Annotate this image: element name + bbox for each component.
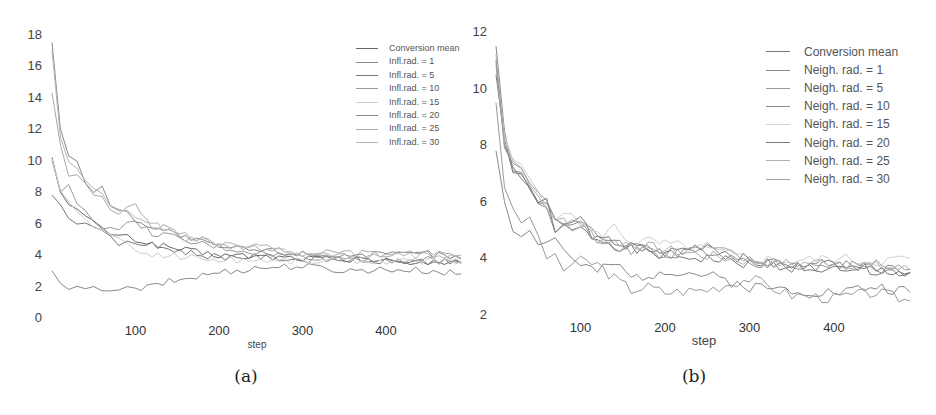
legend-item: Infl.rad. = 25	[356, 122, 460, 135]
legend-label: Conversion mean	[804, 43, 898, 61]
y-tick-label: 0	[12, 310, 42, 325]
x-tick-label: 300	[283, 323, 323, 338]
legend-line-swatch-icon	[766, 106, 790, 107]
legend-label: Infl.rad. = 5	[389, 69, 434, 82]
legend-label: Infl.rad. = 15	[389, 96, 439, 109]
legend-line-swatch-icon	[356, 102, 378, 103]
y-tick-label: 18	[12, 27, 42, 42]
y-tick-label: 8	[12, 184, 42, 199]
y-tick-label: 2	[12, 279, 42, 294]
legend-label: Infl.rad. = 1	[389, 55, 434, 68]
legend-item: Neigh. rad. = 1	[766, 60, 898, 78]
chart-panel-b: 12108642 100200300400 step Conversion me…	[470, 0, 936, 415]
legend-item: Infl.rad. = 10	[356, 82, 460, 95]
y-tick-label: 2	[457, 307, 487, 322]
x-tick-label: 200	[199, 323, 239, 338]
legend-line-swatch-icon	[356, 142, 378, 143]
legend-item: Infl.rad. = 1	[356, 55, 460, 68]
legend-line-swatch-icon	[766, 88, 790, 89]
legend-item: Neigh. rad. = 30	[766, 169, 898, 187]
legend-label: Infl.rad. = 10	[389, 82, 439, 95]
legend-label: Neigh. rad. = 10	[804, 97, 890, 115]
legend-line-swatch-icon	[766, 160, 790, 161]
legend-item: Neigh. rad. = 20	[766, 133, 898, 151]
legend-line-swatch-icon	[766, 179, 790, 180]
y-tick-label: 4	[457, 250, 487, 265]
legend-item: Infl.rad. = 30	[356, 136, 460, 149]
legend-label: Infl.rad. = 30	[389, 136, 439, 149]
y-tick-label: 12	[12, 121, 42, 136]
legend-line-swatch-icon	[356, 88, 378, 89]
caption-b: (b)	[664, 366, 724, 386]
legend-item: Infl.rad. = 15	[356, 96, 460, 109]
legend-label: Neigh. rad. = 20	[804, 134, 890, 152]
legend-item: Infl.rad. = 5	[356, 69, 460, 82]
x-tick-label: 400	[366, 323, 406, 338]
y-tick-label: 10	[457, 81, 487, 96]
x-axis-label-b: step	[674, 333, 734, 348]
legend-item: Neigh. rad. = 5	[766, 78, 898, 96]
legend-item: Conversion mean	[766, 42, 898, 60]
y-tick-label: 16	[12, 58, 42, 73]
legend-label: Neigh. rad. = 25	[804, 152, 890, 170]
legend-label: Neigh. rad. = 5	[804, 79, 883, 97]
y-tick-label: 10	[12, 153, 42, 168]
x-tick-label: 100	[561, 320, 601, 335]
x-tick-label: 400	[814, 320, 854, 335]
legend-line-swatch-icon	[766, 142, 790, 143]
legend-line-swatch-icon	[766, 51, 790, 52]
legend-line-swatch-icon	[356, 62, 378, 63]
y-tick-label: 6	[12, 216, 42, 231]
y-tick-label: 8	[457, 137, 487, 152]
legend-a: Conversion meanInfl.rad. = 1Infl.rad. = …	[356, 42, 460, 149]
legend-line-swatch-icon	[356, 75, 378, 76]
legend-label: Neigh. rad. = 30	[804, 170, 890, 188]
chart-panel-a: 181614121086420 100200300400 step Conver…	[0, 0, 470, 415]
legend-item: Neigh. rad. = 25	[766, 151, 898, 169]
legend-label: Neigh. rad. = 15	[804, 115, 890, 133]
legend-line-swatch-icon	[356, 115, 378, 116]
y-tick-label: 14	[12, 90, 42, 105]
x-axis-label-a: step	[227, 339, 287, 350]
legend-item: Infl.rad. = 20	[356, 109, 460, 122]
legend-item: Neigh. rad. = 15	[766, 115, 898, 133]
y-tick-label: 6	[457, 194, 487, 209]
legend-line-swatch-icon	[356, 48, 378, 49]
legend-line-swatch-icon	[766, 70, 790, 71]
legend-label: Infl.rad. = 25	[389, 122, 439, 135]
legend-b: Conversion meanNeigh. rad. = 1Neigh. rad…	[766, 42, 898, 188]
legend-item: Neigh. rad. = 10	[766, 97, 898, 115]
caption-a: (a)	[216, 366, 276, 386]
legend-line-swatch-icon	[356, 129, 378, 130]
y-tick-label: 4	[12, 247, 42, 262]
x-tick-label: 300	[730, 320, 770, 335]
legend-line-swatch-icon	[766, 124, 790, 125]
legend-label: Infl.rad. = 20	[389, 109, 439, 122]
x-tick-label: 100	[116, 323, 156, 338]
legend-label: Conversion mean	[389, 42, 460, 55]
series-line	[52, 264, 461, 291]
legend-label: Neigh. rad. = 1	[804, 61, 883, 79]
y-tick-label: 12	[457, 24, 487, 39]
legend-item: Conversion mean	[356, 42, 460, 55]
